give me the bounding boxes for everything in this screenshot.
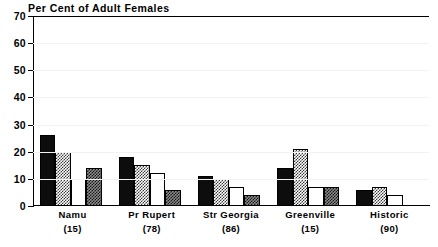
x-category-count: (90): [350, 222, 429, 236]
bar-chart: Per Cent of Adult Females 01020304050607…: [0, 0, 438, 247]
y-tick-label: 60: [0, 37, 26, 49]
y-tick-label: 20: [0, 146, 26, 158]
bar-group: [112, 16, 191, 206]
gridline: [33, 43, 429, 44]
bar-group: [33, 16, 112, 206]
bar: [165, 190, 181, 206]
bar: [308, 187, 324, 206]
gridline: [33, 152, 429, 153]
bar: [134, 165, 150, 206]
bar-group: [350, 16, 429, 206]
x-category-name: Namu: [59, 209, 87, 220]
bar: [119, 157, 135, 206]
x-category-name: Str Georgia: [203, 209, 259, 220]
x-category-count: (15): [271, 222, 350, 236]
bar: [213, 179, 229, 206]
bar: [277, 168, 293, 206]
gridline: [33, 97, 429, 98]
y-tick-label: 0: [0, 200, 26, 212]
gridline: [33, 70, 429, 71]
x-category-count: (78): [112, 222, 191, 236]
y-tick-label: 40: [0, 91, 26, 103]
bar: [372, 187, 388, 206]
bar: [324, 187, 340, 206]
bar: [293, 149, 309, 206]
bar: [71, 179, 87, 206]
x-category-label: Str Georgia(86): [191, 208, 270, 236]
bar: [198, 176, 214, 206]
bar-groups: [33, 16, 429, 206]
y-tick-label: 50: [0, 64, 26, 76]
x-category-count: (86): [191, 222, 270, 236]
y-tick-mark: [28, 16, 34, 17]
bar: [244, 195, 260, 206]
x-category-label: Pr Rupert(78): [112, 208, 191, 236]
y-tick-label: 30: [0, 119, 26, 131]
x-category-name: Historic: [370, 209, 409, 220]
bar-group: [191, 16, 270, 206]
y-tick-label: 10: [0, 173, 26, 185]
chart-title: Per Cent of Adult Females: [28, 2, 170, 14]
y-tick-mark: [28, 206, 34, 207]
x-axis-labels: Namu(15)Pr Rupert(78)Str Georgia(86)Gree…: [33, 208, 429, 246]
bar: [387, 195, 403, 206]
bar: [229, 187, 245, 206]
bar: [86, 168, 102, 206]
gridline: [33, 125, 429, 126]
bar-group: [271, 16, 350, 206]
x-category-label: Namu(15): [33, 208, 112, 236]
x-category-label: Historic(90): [350, 208, 429, 236]
gridline: [33, 179, 429, 180]
y-axis-labels: 010203040506070: [0, 0, 26, 247]
bar: [40, 135, 56, 206]
x-category-count: (15): [33, 222, 112, 236]
y-tick-label: 70: [0, 10, 26, 22]
bar: [356, 190, 372, 206]
x-category-label: Greenville(15): [271, 208, 350, 236]
x-category-name: Greenville: [285, 209, 335, 220]
x-category-name: Pr Rupert: [128, 209, 175, 220]
